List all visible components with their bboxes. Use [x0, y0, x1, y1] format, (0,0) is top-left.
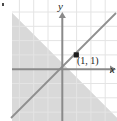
coordinate-plane-svg	[0, 0, 117, 121]
plot-area	[0, 0, 117, 121]
y-axis-arrowhead-icon	[59, 12, 66, 18]
point-coordinate-label: (1, 1)	[77, 56, 99, 66]
x-axis-label: x	[110, 64, 115, 75]
shaded-region-fill	[12, 13, 117, 121]
graph-figure: y x (1, 1)	[0, 0, 117, 121]
y-axis-label: y	[58, 1, 63, 12]
